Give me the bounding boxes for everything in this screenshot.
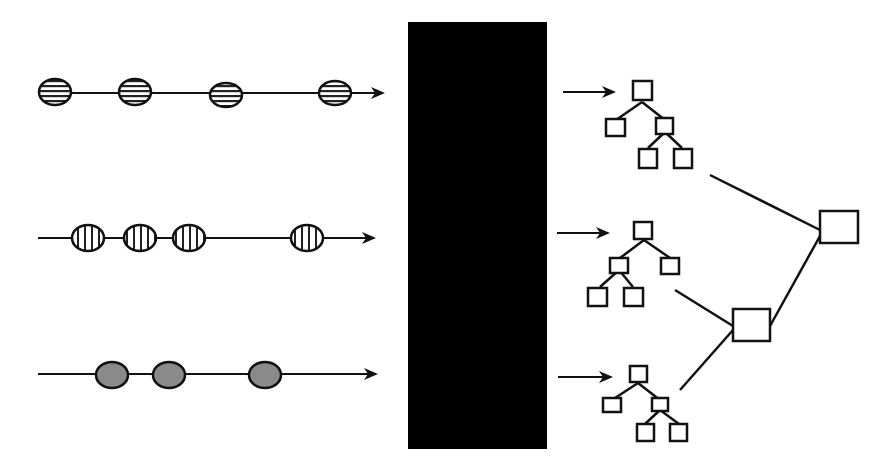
tree-node: [588, 288, 607, 306]
tree-1: [563, 81, 692, 168]
event-ellipse: [39, 79, 71, 105]
event-ellipse: [119, 79, 151, 105]
tree-2: [557, 222, 679, 306]
tree-node: [656, 118, 673, 134]
event-ellipse: [249, 362, 281, 388]
tree-3: [558, 366, 687, 441]
tree-node: [670, 424, 687, 441]
event-ellipse: [319, 81, 351, 105]
event-ellipse: [291, 225, 323, 251]
connector-line: [675, 290, 733, 326]
sequence-horizontal-hatch: [38, 79, 383, 107]
event-ellipse: [210, 83, 242, 107]
event-ellipse: [124, 225, 156, 251]
tree-node: [652, 398, 668, 411]
event-ellipse: [72, 225, 104, 251]
connector-line: [770, 236, 820, 326]
tree-node: [674, 149, 692, 168]
black-box: [408, 22, 547, 449]
tree-node: [610, 258, 628, 273]
combiner-connections: [675, 175, 858, 390]
tree-node: [637, 424, 654, 441]
diagram-canvas: [0, 0, 891, 474]
event-ellipse: [173, 225, 205, 251]
event-ellipse: [96, 362, 128, 388]
combiner-lower: [733, 309, 770, 341]
tree-node: [661, 258, 679, 274]
tree-node: [639, 149, 657, 168]
sequence-gray-fill: [38, 362, 376, 388]
sequence-vertical-hatch: [38, 225, 374, 251]
combiner-top: [820, 211, 858, 243]
tree-node: [634, 222, 652, 239]
tree-node: [603, 398, 621, 412]
tree-node: [633, 81, 652, 100]
connector-line: [680, 330, 733, 390]
event-ellipse: [153, 362, 185, 388]
tree-node: [624, 288, 643, 306]
connector-line: [710, 175, 820, 230]
tree-node: [606, 119, 625, 136]
tree-node: [630, 366, 647, 382]
